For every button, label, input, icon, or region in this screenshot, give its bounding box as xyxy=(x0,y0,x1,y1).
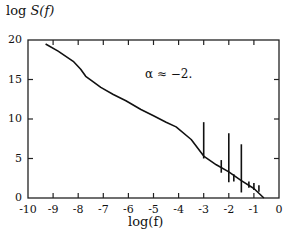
y-axis-label: log S(f) xyxy=(6,3,54,18)
x-tick-label: -6 xyxy=(116,203,140,216)
y-axis-label-prefix: log xyxy=(6,3,30,18)
x-axis-label: log(f) xyxy=(128,214,163,229)
x-tick-label: 0 xyxy=(267,203,290,216)
spectrum-chart: log S(f) log(f) α ≈ −2. 05101520 -10-9-8… xyxy=(0,0,290,237)
x-tick-label: -2 xyxy=(217,203,241,216)
alpha-annotation: α ≈ −2. xyxy=(145,67,192,81)
x-tick-label: -10 xyxy=(16,203,40,216)
x-tick-label: -7 xyxy=(91,203,115,216)
x-tick-label: -5 xyxy=(142,203,166,216)
x-tick-label: -1 xyxy=(242,203,266,216)
y-tick-label: 15 xyxy=(0,73,22,86)
x-tick-label: -9 xyxy=(41,203,65,216)
y-axis-label-func: S(f) xyxy=(30,3,54,18)
y-tick-label: 10 xyxy=(0,112,22,125)
plot-area xyxy=(0,0,290,237)
y-tick-label: 5 xyxy=(0,152,22,165)
x-tick-label: -8 xyxy=(66,203,90,216)
y-tick-label: 20 xyxy=(0,33,22,46)
x-tick-label: -3 xyxy=(192,203,216,216)
x-tick-label: -4 xyxy=(167,203,191,216)
